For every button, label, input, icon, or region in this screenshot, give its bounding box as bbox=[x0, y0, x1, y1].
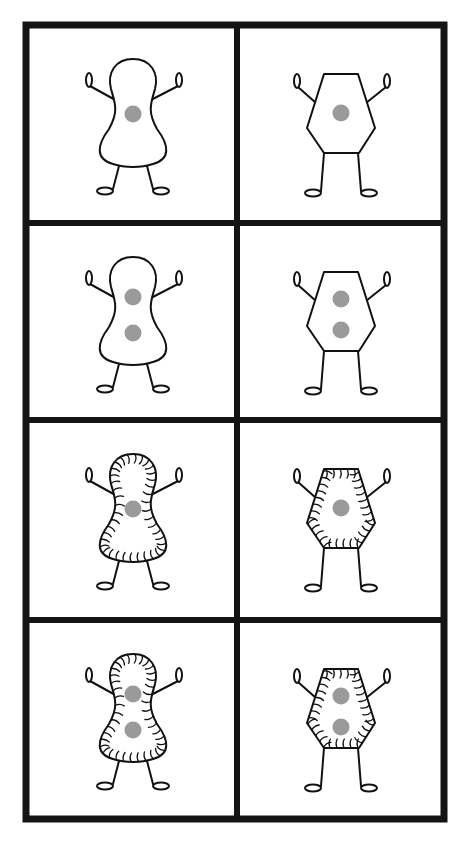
nucleus-dot-1 bbox=[125, 106, 142, 123]
left-arm bbox=[298, 87, 316, 103]
right-hand-icon bbox=[176, 468, 182, 482]
left-leg bbox=[113, 166, 119, 189]
left-hand-icon bbox=[294, 669, 300, 683]
right-hand-icon bbox=[384, 469, 390, 483]
nucleus-dot-1 bbox=[125, 686, 142, 703]
right-foot-icon bbox=[153, 783, 169, 790]
left-hand-icon bbox=[86, 73, 92, 87]
right-arm bbox=[366, 682, 386, 698]
cell-r2-c2 bbox=[294, 272, 390, 395]
left-arm bbox=[298, 682, 316, 698]
peanut-body bbox=[100, 257, 167, 365]
right-hand-icon bbox=[384, 74, 390, 88]
left-foot-icon bbox=[305, 785, 321, 792]
left-foot-icon bbox=[97, 386, 113, 393]
cell-r4-c2 bbox=[294, 669, 390, 792]
cell-r1-c2 bbox=[294, 74, 390, 197]
right-foot-icon bbox=[153, 386, 169, 393]
left-hand-icon bbox=[86, 271, 92, 285]
right-foot-icon bbox=[361, 785, 377, 792]
nucleus-dot-2 bbox=[125, 325, 142, 342]
left-leg bbox=[321, 153, 324, 191]
nucleus-dot-1 bbox=[125, 501, 142, 518]
right-arm bbox=[366, 482, 386, 498]
right-leg bbox=[147, 561, 153, 584]
right-leg bbox=[358, 153, 361, 191]
left-foot-icon bbox=[305, 388, 321, 395]
nucleus-dot-1 bbox=[333, 291, 350, 308]
right-leg bbox=[358, 548, 361, 586]
cell-r4-c1 bbox=[86, 654, 182, 790]
right-hand-icon bbox=[176, 271, 182, 285]
right-arm bbox=[366, 285, 386, 301]
left-leg bbox=[113, 364, 119, 387]
nucleus-dot-1 bbox=[333, 105, 350, 122]
peanut-body bbox=[100, 654, 167, 762]
nucleus-dot-2 bbox=[333, 719, 350, 736]
right-foot-icon bbox=[361, 190, 377, 197]
right-hand-icon bbox=[176, 668, 182, 682]
nucleus-dot-1 bbox=[333, 500, 350, 517]
left-hand-icon bbox=[294, 272, 300, 286]
hexagon-body bbox=[307, 272, 375, 351]
right-foot-icon bbox=[361, 388, 377, 395]
nucleus-dot-1 bbox=[125, 289, 142, 306]
grid-frame bbox=[26, 25, 444, 819]
left-hand-icon bbox=[294, 74, 300, 88]
right-foot-icon bbox=[153, 188, 169, 195]
right-leg bbox=[358, 748, 361, 786]
left-leg bbox=[113, 561, 119, 584]
cell-r1-c1 bbox=[86, 59, 182, 195]
left-hand-icon bbox=[294, 469, 300, 483]
nucleus-dot-2 bbox=[125, 722, 142, 739]
left-hand-icon bbox=[86, 668, 92, 682]
left-arm bbox=[298, 285, 316, 301]
nucleus-dot-1 bbox=[333, 688, 350, 705]
cell-r3-c1 bbox=[86, 454, 182, 590]
left-foot-icon bbox=[305, 585, 321, 592]
left-leg bbox=[113, 761, 119, 784]
left-foot-icon bbox=[97, 783, 113, 790]
left-leg bbox=[321, 748, 324, 786]
right-arm bbox=[366, 87, 386, 103]
right-hand-icon bbox=[384, 669, 390, 683]
left-foot-icon bbox=[97, 188, 113, 195]
left-leg bbox=[321, 351, 324, 389]
cell-r2-c1 bbox=[86, 257, 182, 393]
right-leg bbox=[147, 761, 153, 784]
left-leg bbox=[321, 548, 324, 586]
left-arm bbox=[298, 482, 316, 498]
left-foot-icon bbox=[305, 190, 321, 197]
right-leg bbox=[147, 166, 153, 189]
right-foot-icon bbox=[361, 585, 377, 592]
nucleus-dot-2 bbox=[333, 322, 350, 339]
right-leg bbox=[358, 351, 361, 389]
left-foot-icon bbox=[97, 583, 113, 590]
cell-r3-c2 bbox=[294, 469, 390, 592]
left-hand-icon bbox=[86, 468, 92, 482]
right-hand-icon bbox=[176, 73, 182, 87]
right-leg bbox=[147, 364, 153, 387]
creature-grid bbox=[0, 0, 473, 845]
right-hand-icon bbox=[384, 272, 390, 286]
right-foot-icon bbox=[153, 583, 169, 590]
